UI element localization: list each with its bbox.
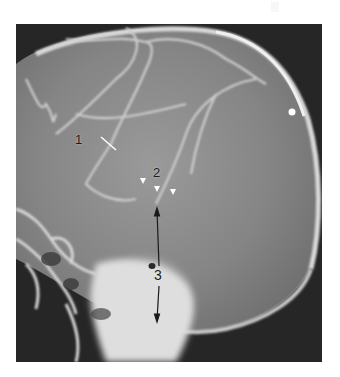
scan-artifact bbox=[271, 2, 279, 12]
annotation-label-1: 1 bbox=[75, 133, 82, 146]
annotation-label-3: 3 bbox=[154, 268, 162, 282]
radiopaque-marker bbox=[289, 109, 296, 116]
radiograph-image: 1 2 3 bbox=[16, 24, 322, 362]
annotation-label-2: 2 bbox=[153, 166, 160, 179]
skull-xray-illustration bbox=[16, 24, 322, 362]
